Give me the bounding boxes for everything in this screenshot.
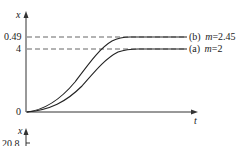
chart-canvas: x t 0 4 0.49 (b) m=2.45 (a) m=2 x 20.8 [0,0,240,146]
curve-a [27,49,187,112]
second-y-axis-arrow-icon [24,128,29,135]
y-tick-4: 4 [16,43,21,54]
y-tick-049: 0.49 [4,31,22,42]
legend-a: (a) m=2 [189,43,222,55]
x-axis-label: t [194,115,197,126]
legend-a-prefix: (a) [189,43,200,55]
legend-b-value: 2.45 [218,31,236,42]
x-axis-arrow-icon [191,110,198,115]
legend-b-prefix: (b) [189,31,201,43]
curve-b [27,37,187,112]
legend-b: (b) m=2.45 [189,31,236,43]
second-y-axis-label: x [17,125,23,136]
legend-a-param: m [205,43,212,54]
y-axis-label: x [15,9,21,20]
second-y-tick: 20.8 [2,138,20,146]
y-tick-0: 0 [16,106,21,117]
y-axis-arrow-icon [24,11,29,18]
legend-b-param: m [205,31,212,42]
legend-a-value: 2 [217,43,222,54]
